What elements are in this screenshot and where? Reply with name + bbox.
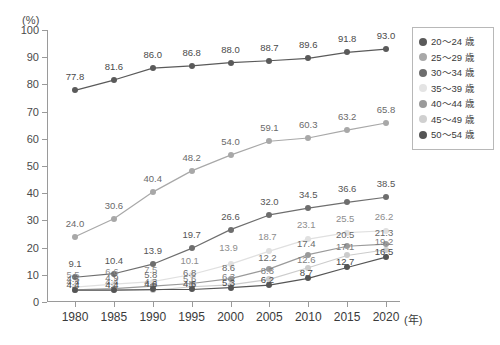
- data-value-label: 48.2: [182, 152, 201, 162]
- y-tick-label: 70: [27, 106, 39, 117]
- data-value-label: 19.2: [375, 236, 394, 246]
- data-value-label: 10.1: [180, 255, 199, 265]
- y-tick: [42, 193, 47, 194]
- x-axis-unit-label: (年): [404, 311, 422, 327]
- y-tick: [42, 112, 47, 113]
- data-value-label: 4.4: [105, 280, 118, 290]
- x-tick: [347, 302, 348, 307]
- data-point: [228, 152, 234, 158]
- legend-marker-icon: [419, 84, 427, 92]
- data-point: [150, 65, 156, 71]
- data-value-label: 88.7: [260, 42, 279, 52]
- x-tick: [75, 302, 76, 307]
- legend-item-2[interactable]: 25～29 歳: [419, 50, 488, 66]
- x-tick: [192, 302, 193, 307]
- data-point: [111, 216, 117, 222]
- data-value-label: 32.0: [260, 196, 279, 206]
- data-point: [305, 205, 311, 211]
- data-value-label: 6.2: [261, 275, 274, 285]
- legend-item-7[interactable]: 50～54 歳: [419, 127, 488, 143]
- y-tick: [42, 139, 47, 140]
- data-point: [305, 135, 311, 141]
- data-value-label: 26.6: [221, 211, 240, 221]
- data-point: [228, 60, 234, 66]
- data-value-label: 4.6: [144, 279, 157, 289]
- x-tick-label: 2010: [295, 311, 322, 323]
- data-value-label: 89.6: [299, 40, 318, 50]
- legend-item-label: 35～39 歳: [431, 84, 475, 94]
- chart-legend: 20～24 歳25～29 歳30～34 歳35～39 歳40～44 歳45～49…: [412, 27, 494, 150]
- data-point: [266, 138, 272, 144]
- data-point: [150, 189, 156, 195]
- data-value-label: 4.6: [183, 279, 196, 289]
- y-tick: [42, 84, 47, 85]
- x-tick-label: 1995: [178, 311, 205, 323]
- legend-item-label: 50～54 歳: [431, 130, 475, 140]
- legend-item-1[interactable]: 20～24 歳: [419, 34, 488, 50]
- data-value-label: 8.7: [300, 268, 313, 278]
- data-point: [383, 120, 389, 126]
- legend-item-label: 25～29 歳: [431, 53, 475, 63]
- data-point: [344, 127, 350, 133]
- legend-item-6[interactable]: 45～49 歳: [419, 112, 488, 128]
- data-value-label: 13.9: [144, 246, 163, 256]
- legend-marker-icon: [419, 131, 427, 139]
- legend-marker-icon: [419, 100, 427, 108]
- y-tick-label: 10: [27, 269, 39, 280]
- data-value-label: 16.5: [375, 247, 394, 257]
- data-value-label: 25.5: [336, 213, 355, 223]
- legend-marker-icon: [419, 69, 427, 77]
- data-value-label: 12.2: [258, 252, 277, 262]
- x-tick: [269, 302, 270, 307]
- legend-item-label: 30～34 歳: [431, 68, 475, 78]
- x-tick: [153, 302, 154, 307]
- y-tick-label: 80: [27, 79, 39, 90]
- chart-page: (%) 0102030405060708090100 1980198519901…: [0, 0, 500, 345]
- data-point: [111, 77, 117, 83]
- data-value-label: 77.8: [66, 72, 85, 82]
- x-tick-label: 2020: [373, 311, 400, 323]
- data-value-label: 86.8: [182, 47, 201, 57]
- data-value-label: 17.1: [336, 242, 355, 252]
- data-point: [383, 46, 389, 52]
- legend-item-4[interactable]: 35～39 歳: [419, 81, 488, 97]
- data-value-label: 10.4: [105, 255, 124, 265]
- data-value-label: 81.6: [105, 62, 124, 72]
- legend-marker-icon: [419, 115, 427, 123]
- y-tick: [42, 302, 47, 303]
- data-value-label: 91.8: [338, 34, 357, 44]
- data-value-label: 65.8: [377, 105, 396, 115]
- data-value-label: 13.9: [219, 243, 238, 253]
- data-value-label: 30.6: [105, 200, 124, 210]
- data-value-label: 12.7: [336, 257, 355, 267]
- data-point: [228, 227, 234, 233]
- data-value-label: 4.4: [66, 280, 79, 290]
- data-point: [344, 49, 350, 55]
- x-tick: [386, 302, 387, 307]
- data-value-label: 5.3: [222, 277, 235, 287]
- y-tick: [42, 30, 47, 31]
- x-tick: [308, 302, 309, 307]
- data-value-label: 93.0: [377, 31, 396, 41]
- x-tick: [231, 302, 232, 307]
- y-tick-label: 0: [33, 297, 39, 308]
- y-tick-label: 20: [27, 242, 39, 253]
- y-tick: [42, 248, 47, 249]
- data-value-label: 20.5: [336, 230, 355, 240]
- data-value-label: 36.6: [338, 184, 357, 194]
- data-value-label: 34.5: [299, 190, 318, 200]
- y-tick: [42, 220, 47, 221]
- data-point: [189, 63, 195, 69]
- y-tick: [42, 57, 47, 58]
- data-point: [72, 234, 78, 240]
- data-point: [266, 212, 272, 218]
- data-value-label: 60.3: [299, 119, 318, 129]
- y-tick: [42, 166, 47, 167]
- legend-item-5[interactable]: 40～44 歳: [419, 96, 488, 112]
- legend-marker-icon: [419, 53, 427, 61]
- legend-item-3[interactable]: 30～34 歳: [419, 65, 488, 81]
- data-value-label: 86.0: [144, 50, 163, 60]
- data-point: [266, 58, 272, 64]
- data-value-label: 63.2: [338, 112, 357, 122]
- data-point: [72, 87, 78, 93]
